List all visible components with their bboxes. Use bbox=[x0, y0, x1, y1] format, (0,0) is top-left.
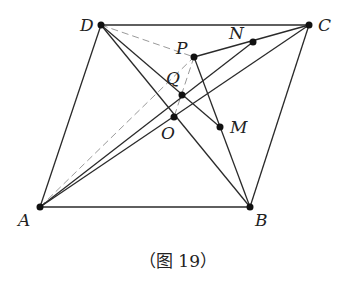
segment-AD bbox=[40, 25, 101, 207]
point-Q bbox=[179, 92, 186, 99]
label-P: P bbox=[175, 38, 188, 58]
point-labels: DCABPNQOM bbox=[16, 15, 331, 230]
label-C: C bbox=[318, 15, 331, 35]
geometry-diagram: DCABPNQOM （图 19） bbox=[0, 0, 355, 292]
figure-caption: （图 19） bbox=[139, 251, 217, 271]
point-D bbox=[98, 22, 105, 29]
segment-CB bbox=[250, 25, 309, 207]
segment-DM bbox=[101, 25, 220, 127]
point-P bbox=[191, 54, 198, 61]
point-M bbox=[217, 124, 224, 131]
label-D: D bbox=[79, 15, 94, 35]
point-B bbox=[247, 204, 254, 211]
point-N bbox=[250, 39, 257, 46]
label-N: N bbox=[228, 23, 245, 43]
label-Q: Q bbox=[166, 68, 180, 88]
point-O bbox=[171, 114, 178, 121]
label-O: O bbox=[161, 123, 175, 143]
point-C bbox=[306, 22, 313, 29]
label-B: B bbox=[254, 210, 268, 230]
point-A bbox=[37, 204, 44, 211]
label-A: A bbox=[16, 210, 30, 230]
label-M: M bbox=[229, 117, 248, 137]
